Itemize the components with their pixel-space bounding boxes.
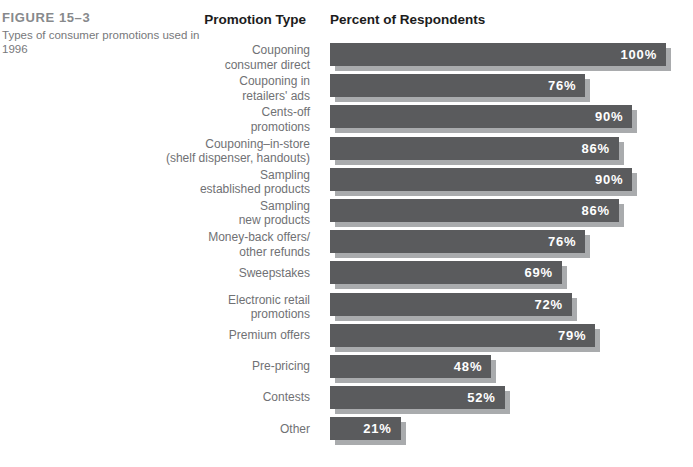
bar: 48% [330,355,491,378]
bar-value-label: 21% [363,421,391,436]
bar: 69% [330,261,562,284]
category-label: Cents-off promotions [0,105,330,134]
bar: 90% [330,168,632,191]
chart-row: Couponing consumer direct 100% [0,43,693,74]
bar-area: 100% [330,43,693,66]
bar-area: 76% [330,230,693,253]
bar-area: 69% [330,261,693,284]
figure-15-3: FIGURE 15–3 Types of consumer promotions… [0,0,693,467]
chart-row: Pre-pricing 48% [0,355,693,386]
bar: 86% [330,137,619,160]
percent-of-respondents-header: Percent of Respondents [330,12,485,27]
category-label: Premium offers [0,324,330,347]
chart-row: Electronic retail promotions 72% [0,293,693,324]
chart-row: Sweepstakes 69% [0,261,693,292]
category-label: Sampling established products [0,168,330,197]
bar: 86% [330,199,619,222]
bar-area: 52% [330,386,693,409]
column-headers: Promotion Type Percent of Respondents [0,12,693,27]
bar-area: 86% [330,199,693,222]
category-label: Couponing consumer direct [0,43,330,72]
bar-area: 90% [330,105,693,128]
bar-area: 48% [330,355,693,378]
bar-value-label: 90% [595,172,623,187]
chart-row: Contests 52% [0,386,693,417]
promotion-type-header: Promotion Type [0,12,330,27]
bar-value-label: 76% [548,234,576,249]
bar-value-label: 79% [558,328,586,343]
bar-chart: Couponing consumer direct 100% Couponing… [0,43,693,448]
bar-area: 72% [330,293,693,316]
chart-row: Sampling established products 90% [0,168,693,199]
category-label: Sweepstakes [0,261,330,284]
bar-value-label: 48% [454,359,482,374]
bar: 72% [330,293,572,316]
bar-value-label: 90% [595,109,623,124]
bar-value-label: 52% [467,390,495,405]
category-label: Couponing–in-store (shelf dispenser, han… [0,137,330,166]
chart-row: Premium offers 79% [0,324,693,355]
bar-area: 21% [330,417,693,440]
bar: 76% [330,230,585,253]
bar-area: 79% [330,324,693,347]
category-label: Sampling new products [0,199,330,228]
category-label: Other [0,417,330,440]
category-label: Contests [0,386,330,409]
bar-value-label: 69% [524,265,552,280]
chart-row: Couponing–in-store (shelf dispenser, han… [0,137,693,168]
category-label: Couponing in retailers' ads [0,74,330,103]
chart-row: Other 21% [0,417,693,448]
bar: 76% [330,74,585,97]
chart-row: Cents-off promotions 90% [0,105,693,136]
chart-row: Money-back offers/ other refunds 76% [0,230,693,261]
chart-row: Couponing in retailers' ads 76% [0,74,693,105]
bar-value-label: 86% [582,141,610,156]
bar-value-label: 86% [582,203,610,218]
bar: 100% [330,43,666,66]
bar-value-label: 76% [548,78,576,93]
bar-area: 76% [330,74,693,97]
bar-area: 86% [330,137,693,160]
category-label: Money-back offers/ other refunds [0,230,330,259]
bar-value-label: 100% [621,47,657,62]
bar-value-label: 72% [534,297,562,312]
bar: 52% [330,386,505,409]
category-label: Pre-pricing [0,355,330,378]
bar: 79% [330,324,595,347]
category-label: Electronic retail promotions [0,293,330,322]
bar: 90% [330,105,632,128]
bar: 21% [330,417,401,440]
chart-row: Sampling new products 86% [0,199,693,230]
bar-area: 90% [330,168,693,191]
